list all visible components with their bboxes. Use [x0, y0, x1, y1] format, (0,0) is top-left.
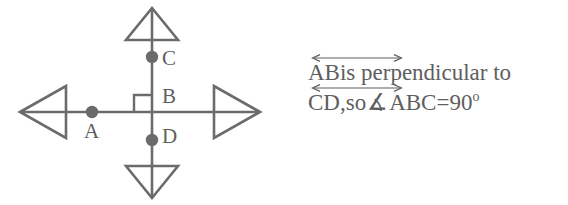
point-label-b: B — [162, 86, 176, 107]
statement-so: so — [346, 88, 366, 118]
point-dot-d — [146, 134, 158, 146]
right-angle-marker — [134, 95, 152, 112]
statement-line-1: AB is perpendicular to — [308, 57, 558, 87]
degree-symbol: o — [472, 89, 479, 104]
angle-value: 90 — [449, 88, 472, 118]
line-notation-ab: AB — [308, 57, 340, 88]
point-label-c: C — [162, 48, 176, 69]
equals-sign: = — [436, 88, 449, 118]
point-dot-a — [86, 106, 98, 118]
geometry-figure-page: A C B D AB is perpendicular to — [0, 0, 568, 205]
segment-label-cd: CD — [308, 90, 340, 115]
angle-name-abc: ABC — [389, 88, 436, 118]
point-label-d: D — [162, 126, 177, 147]
point-label-a: A — [84, 121, 99, 142]
segment-label-ab: AB — [308, 60, 340, 85]
point-dot-c — [146, 51, 158, 63]
statement-line-2: CD , so ∡ABC = 90o — [308, 87, 558, 117]
line-notation-cd: CD — [308, 87, 340, 118]
perpendicular-lines-diagram: A C B D — [0, 0, 284, 205]
statement-line-1-rest: is perpendicular to — [340, 58, 511, 88]
statement-text: AB is perpendicular to CD , so ∡ABC = 90… — [308, 57, 558, 117]
angle-symbol-icon: ∡ — [366, 88, 389, 118]
diagram-svg — [0, 0, 284, 205]
